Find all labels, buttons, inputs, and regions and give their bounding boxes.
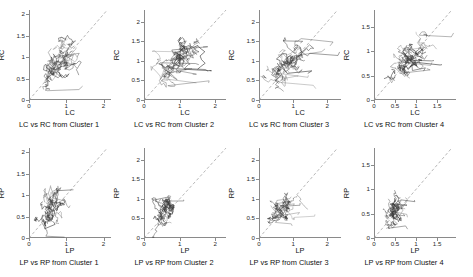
data-traces	[259, 148, 341, 238]
trajectory-polyline	[34, 217, 41, 222]
subplot-caption: LP vs RP from Cluster 3	[250, 259, 329, 266]
subplot-caption: LP vs RP from Cluster 2	[135, 259, 214, 266]
y-axis-tick-label: 1.5	[246, 176, 255, 182]
y-axis-tick-label: 1.5	[361, 162, 370, 168]
subplot-panel: 00.511.52012RPLPLP vs RP from Cluster 1	[0, 138, 118, 276]
trajectory-polyline	[388, 222, 407, 229]
trajectory-polyline	[274, 79, 315, 88]
x-axis-tick-label: 0.5	[391, 103, 400, 109]
data-traces	[144, 148, 226, 238]
y-axis-tick-label: 1	[22, 192, 25, 198]
x-axis-tick-label: 2	[102, 103, 105, 109]
x-axis-label: LP	[295, 247, 304, 254]
plot-area: 00.511.52012	[259, 148, 341, 238]
y-axis-tick-label: 0.5	[246, 215, 255, 221]
trajectory-polyline	[394, 190, 396, 202]
multi-panel-scatter-figure: 00.511.52012RCLCLC vs RC from Cluster 10…	[0, 0, 473, 277]
x-axis-tick-label: 1.5	[433, 241, 442, 247]
trajectory-polyline	[388, 75, 395, 82]
subplot-caption: LP vs RP from Cluster 1	[20, 259, 99, 266]
y-axis-tick-label: 1.5	[131, 176, 140, 182]
trajectory-polyline	[296, 195, 308, 209]
x-axis-tick-label: 2	[214, 103, 217, 109]
y-axis-label: RC	[343, 50, 350, 61]
subplot-panel: 00.511.500.511.5RCLCLC vs RC from Cluste…	[345, 0, 463, 138]
x-axis-tick-label: 1	[291, 241, 294, 247]
y-axis-tick-label: 2	[252, 19, 255, 25]
identity-reference-line	[374, 10, 452, 100]
subplot-caption: LC vs RC from Cluster 1	[19, 121, 99, 128]
trajectory-polyline	[154, 216, 159, 221]
x-axis-tick-label: 0	[257, 241, 260, 247]
y-axis-label: RP	[343, 188, 350, 198]
trajectory-polyline	[261, 75, 275, 82]
trajectory-polyline	[168, 72, 209, 87]
x-axis-tick-label: 1.5	[433, 103, 442, 109]
y-axis-label: RP	[0, 188, 6, 198]
x-axis-label: LC	[295, 109, 304, 116]
y-axis-tick-label: 0.5	[131, 77, 140, 83]
y-axis-tick-label: 0	[252, 235, 255, 241]
subplot-panel: 00.511.500.511.5RPLPLP vs RP from Cluste…	[345, 138, 463, 276]
data-traces	[29, 148, 111, 238]
x-axis-tick-label: 0	[372, 241, 375, 247]
data-traces	[259, 10, 341, 100]
y-axis-tick-label: 1	[137, 196, 140, 202]
x-axis-label: LP	[65, 247, 74, 254]
trajectory-polyline	[62, 199, 70, 208]
y-axis-tick-label: 0.5	[361, 73, 370, 79]
y-axis-tick-label: 1.5	[16, 33, 25, 39]
identity-reference-line	[259, 148, 338, 238]
plot-area: 00.511.52012	[29, 148, 111, 238]
subplot-caption: LC vs RC from Cluster 4	[364, 121, 444, 128]
y-axis-label: RC	[0, 50, 6, 61]
identity-reference-line	[144, 10, 226, 100]
x-axis-label: LP	[180, 247, 189, 254]
y-axis-tick-label: 1.5	[246, 38, 255, 44]
y-axis-tick-label: 0.5	[16, 75, 25, 81]
y-axis-tick-label: 1	[22, 54, 25, 60]
x-axis-tick-label: 2	[326, 103, 329, 109]
x-axis-tick-label: 2	[214, 241, 217, 247]
y-axis-tick-label: 0	[252, 97, 255, 103]
y-axis-tick-label: 1	[367, 48, 370, 54]
y-axis-tick-label: 0	[22, 97, 25, 103]
y-axis-tick-label: 0.5	[131, 215, 140, 221]
x-axis-tick-label: 0	[27, 241, 30, 247]
y-axis-tick-label: 2	[137, 157, 140, 163]
data-traces	[29, 10, 111, 100]
y-axis-label: RC	[228, 50, 235, 61]
x-axis-tick-label: 2	[326, 241, 329, 247]
plot-area: 00.511.500.511.5	[374, 148, 456, 238]
y-axis-tick-label: 1.5	[131, 38, 140, 44]
x-axis-label: LP	[410, 247, 419, 254]
plot-area: 00.511.500.511.5	[374, 10, 456, 100]
y-axis-tick-label: 0	[367, 97, 370, 103]
trajectory-polyline	[419, 32, 453, 38]
identity-reference-line	[29, 148, 107, 238]
y-axis-tick-label: 2	[22, 11, 25, 17]
y-axis-tick-label: 0.5	[246, 77, 255, 83]
trajectory-polyline	[44, 221, 55, 229]
x-axis-label: LC	[65, 109, 74, 116]
y-axis-tick-label: 1	[252, 196, 255, 202]
y-axis-tick-label: 0	[137, 235, 140, 241]
trajectory-polyline	[45, 82, 83, 91]
subplot-panel: 00.511.52012RPLPLP vs RP from Cluster 2	[115, 138, 233, 276]
subplot-panel: 00.511.52012RCLCLC vs RC from Cluster 1	[0, 0, 118, 138]
y-axis-label: RC	[113, 50, 120, 61]
trajectory-polyline	[273, 219, 292, 226]
plot-area: 00.511.52012	[259, 10, 341, 100]
y-axis-tick-label: 0.5	[361, 211, 370, 217]
y-axis-tick-label: 2	[22, 149, 25, 155]
x-axis-tick-label: 2	[102, 241, 105, 247]
trajectory-polyline	[384, 69, 395, 79]
subplot-caption: LP vs RP from Cluster 4	[365, 259, 444, 266]
y-axis-label: RP	[113, 188, 120, 198]
y-axis-tick-label: 2	[252, 157, 255, 163]
y-axis-tick-label: 1	[252, 58, 255, 64]
y-axis-tick-label: 1	[137, 58, 140, 64]
x-axis-tick-label: 0	[27, 103, 30, 109]
x-axis-tick-label: 0	[257, 103, 260, 109]
y-axis-tick-label: 0	[137, 97, 140, 103]
